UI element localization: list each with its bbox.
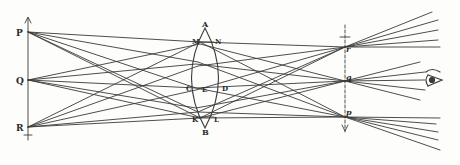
label-L: L	[214, 115, 219, 124]
label-C: C	[186, 84, 192, 93]
label-p: p	[346, 107, 352, 117]
label-P: P	[16, 28, 23, 38]
label-A: A	[201, 19, 209, 29]
label-K: K	[192, 115, 199, 124]
rays-from-P	[28, 32, 440, 150]
label-R: R	[16, 123, 24, 133]
eye-icon	[426, 70, 442, 87]
label-N: N	[215, 37, 222, 46]
label-E: E	[202, 85, 207, 94]
label-B: B	[202, 127, 209, 137]
label-q: q	[346, 72, 352, 82]
label-Q: Q	[16, 76, 24, 86]
label-M: M	[192, 37, 200, 46]
label-D: D	[222, 84, 228, 93]
diagram-canvas: P Q R A B M N K L C E D r q p	[0, 0, 460, 165]
lens-ray-diagram: P Q R A B M N K L C E D r q p	[0, 0, 460, 165]
